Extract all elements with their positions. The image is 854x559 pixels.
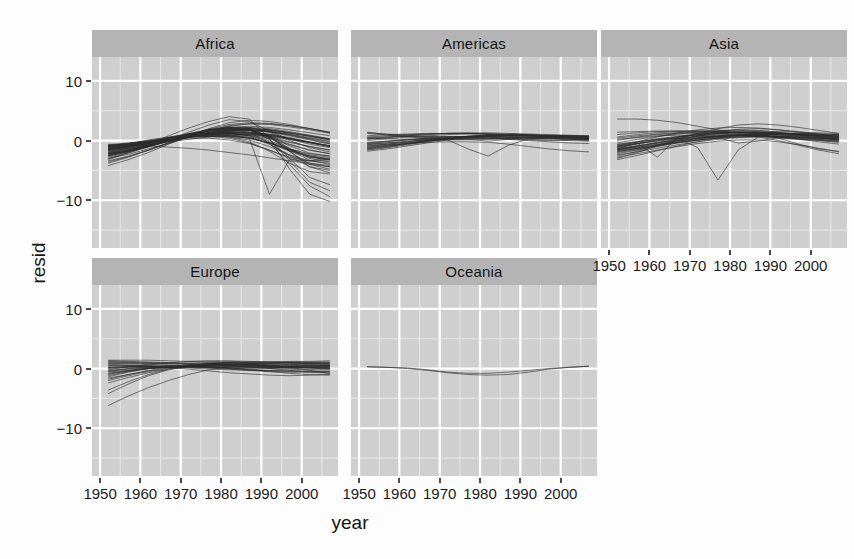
facet-panel-asia xyxy=(601,57,847,248)
x-tick-label: 1960 xyxy=(117,485,163,502)
x-tick-label: 2000 xyxy=(538,485,584,502)
x-tick-label: 1990 xyxy=(497,485,543,502)
chart-root: resid year AfricaAmericasAsiaEuropeOcean… xyxy=(0,0,854,559)
x-tick-label: 1960 xyxy=(626,257,672,274)
x-tick-mark xyxy=(648,250,650,255)
x-tick-mark xyxy=(180,478,182,483)
facet-strip-label: Europe xyxy=(190,263,240,280)
facet-strip-asia: Asia xyxy=(601,30,847,57)
x-tick-label: 1970 xyxy=(667,257,713,274)
x-tick-label: 1980 xyxy=(457,485,503,502)
x-tick-mark xyxy=(439,478,441,483)
y-tick-mark xyxy=(86,80,91,82)
y-tick-mark xyxy=(86,368,91,370)
x-tick-label: 1970 xyxy=(417,485,463,502)
x-tick-mark xyxy=(729,250,731,255)
x-tick-mark xyxy=(301,478,303,483)
x-tick-mark xyxy=(608,250,610,255)
x-tick-mark xyxy=(220,478,222,483)
x-tick-label: 1990 xyxy=(747,257,793,274)
x-tick-mark xyxy=(519,478,521,483)
x-axis-title: year xyxy=(150,512,550,534)
facet-strip-label: Africa xyxy=(195,35,235,52)
x-tick-label: 1950 xyxy=(77,485,123,502)
x-tick-label: 1950 xyxy=(586,257,632,274)
x-tick-label: 1960 xyxy=(376,485,422,502)
facet-strip-label: Asia xyxy=(709,35,739,52)
y-tick-label: 0 xyxy=(30,132,82,149)
y-axis-title: resid xyxy=(28,228,50,298)
facet-strip-label: Oceania xyxy=(445,263,502,280)
y-tick-label: 10 xyxy=(30,72,82,89)
facet-strip-label: Americas xyxy=(442,35,506,52)
x-tick-mark xyxy=(260,478,262,483)
x-tick-mark xyxy=(358,478,360,483)
x-tick-label: 2000 xyxy=(279,485,325,502)
x-tick-label: 1970 xyxy=(158,485,204,502)
facet-strip-americas: Americas xyxy=(351,30,597,57)
y-tick-mark xyxy=(86,427,91,429)
facet-panel-oceania xyxy=(351,285,597,476)
x-tick-mark xyxy=(560,478,562,483)
y-tick-label: −10 xyxy=(30,192,82,209)
x-tick-mark xyxy=(99,478,101,483)
y-tick-label: −10 xyxy=(30,420,82,437)
y-tick-mark xyxy=(86,308,91,310)
x-tick-mark xyxy=(769,250,771,255)
x-tick-label: 1980 xyxy=(707,257,753,274)
x-tick-label: 1990 xyxy=(238,485,284,502)
x-tick-label: 1950 xyxy=(336,485,382,502)
y-tick-label: 0 xyxy=(30,360,82,377)
y-tick-label: 10 xyxy=(30,300,82,317)
facet-strip-africa: Africa xyxy=(92,30,338,57)
facet-panel-africa xyxy=(92,57,338,248)
x-tick-mark xyxy=(689,250,691,255)
x-tick-mark xyxy=(139,478,141,483)
x-tick-mark xyxy=(810,250,812,255)
x-tick-label: 2000 xyxy=(788,257,834,274)
y-tick-mark xyxy=(86,140,91,142)
x-tick-mark xyxy=(479,478,481,483)
facet-strip-europe: Europe xyxy=(92,258,338,285)
facet-strip-oceania: Oceania xyxy=(351,258,597,285)
x-tick-label: 1980 xyxy=(198,485,244,502)
x-tick-mark xyxy=(398,478,400,483)
facet-panel-americas xyxy=(351,57,597,248)
facet-panel-europe xyxy=(92,285,338,476)
y-tick-mark xyxy=(86,199,91,201)
